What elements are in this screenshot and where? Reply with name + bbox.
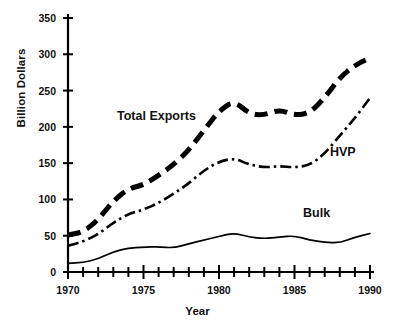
x-axis-tick-label: 1980 [194, 285, 244, 296]
x-axis-tick-label: 1985 [270, 285, 320, 296]
series-label-hvp: HVP [330, 146, 356, 159]
chart-series-group [68, 58, 370, 263]
y-axis-tick-label: 50 [16, 231, 56, 242]
series-label-bulk: Bulk [303, 207, 330, 220]
series-label-total-exports: Total Exports [117, 110, 196, 123]
x-axis-tick-label: 1970 [43, 285, 93, 296]
x-axis-tick-label: 1975 [119, 285, 169, 296]
series-line-hvp [68, 98, 370, 246]
x-axis-tick-label: 1990 [345, 285, 395, 296]
chart-plot-area [0, 0, 395, 330]
x-axis-title: Year [0, 305, 395, 317]
y-axis-tick-label: 0 [16, 267, 56, 278]
chart-container: 050100150200250300350 197019751980198519… [0, 0, 395, 330]
chart-axes [63, 14, 374, 279]
y-axis-tick-label: 350 [16, 13, 56, 24]
y-axis-tick-label: 100 [16, 194, 56, 205]
series-line-bulk [68, 234, 370, 264]
y-axis-tick-label: 150 [16, 158, 56, 169]
y-axis-title: Billion Dollars [15, 23, 27, 153]
